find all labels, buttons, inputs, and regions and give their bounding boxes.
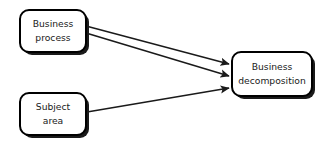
edge-business-process-to-decomposition-upper xyxy=(86,26,229,64)
node-subject-area[interactable]: Subject area xyxy=(20,93,89,138)
diagram-canvas: Business process Subject area Business d… xyxy=(0,0,324,152)
node-business-decomposition-label-line2: decomposition xyxy=(238,75,306,86)
node-business-decomposition[interactable]: Business decomposition xyxy=(232,52,315,99)
node-business-decomposition-label-line1: Business xyxy=(252,61,293,72)
node-business-process-label-line2: process xyxy=(35,32,71,43)
node-business-process[interactable]: Business process xyxy=(20,10,89,55)
node-subject-area-label-line1: Subject xyxy=(36,101,71,112)
diagram-svg: Business process Subject area Business d… xyxy=(0,0,324,152)
edge-subject-area-to-decomposition xyxy=(87,88,229,112)
edge-business-process-to-decomposition-lower xyxy=(86,33,229,76)
node-subject-area-label-line2: area xyxy=(43,115,64,126)
edge-layer xyxy=(86,26,229,112)
node-business-process-label-line1: Business xyxy=(33,18,74,29)
